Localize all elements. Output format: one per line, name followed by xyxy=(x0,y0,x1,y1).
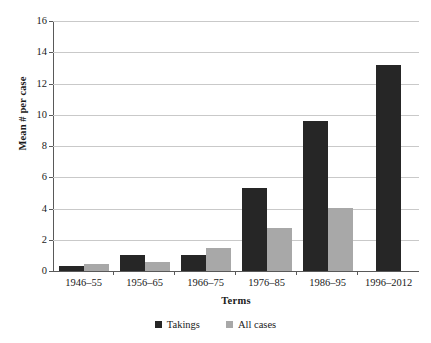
bar-all-cases xyxy=(267,228,292,271)
x-axis-tick-mark xyxy=(113,271,114,275)
bar-group xyxy=(114,21,175,271)
bar-groups xyxy=(53,21,419,271)
y-axis-tick-label: 0 xyxy=(42,266,47,277)
x-axis-tick-label: 1946–55 xyxy=(53,277,114,288)
y-axis-tick-mark xyxy=(49,271,53,272)
chart-legend: TakingsAll cases xyxy=(0,319,431,330)
y-axis-tick-label: 6 xyxy=(42,172,47,183)
x-axis-tick-label: 1976–85 xyxy=(236,277,297,288)
bar-group xyxy=(297,21,358,271)
x-axis-tick-label: 1956–65 xyxy=(114,277,175,288)
legend-item: Takings xyxy=(155,319,200,330)
bar-all-cases xyxy=(328,208,353,271)
x-axis-tick-label: 1986–95 xyxy=(297,277,358,288)
bar-pair xyxy=(297,21,358,271)
x-axis-tick-mark xyxy=(174,271,175,275)
bar-group xyxy=(236,21,297,271)
y-axis-tick-label: 8 xyxy=(42,141,47,152)
bar-takings xyxy=(376,65,401,271)
bar-all-cases xyxy=(206,248,231,271)
y-axis-title: Mean # per case xyxy=(17,44,28,184)
bar-chart-figure: Mean # per case 0246810121416 1946–55195… xyxy=(0,0,431,343)
y-axis-tick-label: 12 xyxy=(37,78,48,89)
bar-takings xyxy=(59,266,84,271)
bar-takings xyxy=(242,188,267,271)
bar-pair xyxy=(358,21,419,271)
legend-swatch-icon xyxy=(155,321,162,328)
bar-group xyxy=(358,21,419,271)
legend-item: All cases xyxy=(226,319,276,330)
bar-takings xyxy=(303,121,328,271)
x-axis-tick-label: 1966–75 xyxy=(175,277,236,288)
x-axis-tick-labels: 1946–551956–651966–751976–851986–951996–… xyxy=(53,277,419,288)
y-axis-tick-label: 16 xyxy=(37,16,48,27)
legend-label: Takings xyxy=(167,319,200,330)
y-axis-tick-label: 2 xyxy=(42,235,47,246)
plot-area: 0246810121416 xyxy=(53,21,419,271)
bar-takings xyxy=(181,255,206,271)
x-axis-tick-mark xyxy=(235,271,236,275)
x-axis-title: Terms xyxy=(53,295,419,306)
y-axis-tick-label: 4 xyxy=(42,203,47,214)
bar-pair xyxy=(236,21,297,271)
legend-swatch-icon xyxy=(226,321,233,328)
bar-takings xyxy=(120,255,145,271)
x-axis-tick-mark xyxy=(296,271,297,275)
y-axis-tick-label: 14 xyxy=(37,47,48,58)
bar-pair xyxy=(175,21,236,271)
bar-all-cases xyxy=(84,264,109,271)
x-axis-tick-label: 1996–2012 xyxy=(358,277,419,288)
legend-label: All cases xyxy=(238,319,276,330)
bar-pair xyxy=(114,21,175,271)
bar-group xyxy=(53,21,114,271)
gridline xyxy=(53,271,419,272)
x-axis-tick-mark xyxy=(357,271,358,275)
bar-pair xyxy=(53,21,114,271)
bar-group xyxy=(175,21,236,271)
bar-all-cases xyxy=(145,262,170,271)
y-axis-tick-label: 10 xyxy=(37,110,48,121)
